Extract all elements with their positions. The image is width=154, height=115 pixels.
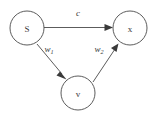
edge-s-to-x [44, 24, 113, 31]
edge-label-w1-sub: 1 [50, 48, 53, 55]
node-s[interactable]: S [10, 11, 44, 45]
edge-label-c: c [76, 8, 80, 18]
arrowhead-into-x-from-v [111, 44, 119, 53]
node-x[interactable]: x [113, 11, 147, 45]
directed-graph-diagram: S x v c w1 w2 [0, 0, 154, 115]
graph-canvas: S x v c w1 w2 [0, 0, 154, 115]
edge-label-w1: w1 [44, 44, 53, 55]
node-label-x: x [128, 24, 133, 34]
edge-label-w2-sub: 2 [100, 48, 103, 55]
node-label-s: S [24, 24, 29, 34]
edge-label-w2: w2 [94, 44, 103, 55]
node-v[interactable]: v [61, 76, 95, 110]
edge-label-c-main: c [76, 8, 80, 18]
node-label-v: v [76, 89, 81, 99]
arrowhead-into-x-from-s [105, 24, 114, 31]
